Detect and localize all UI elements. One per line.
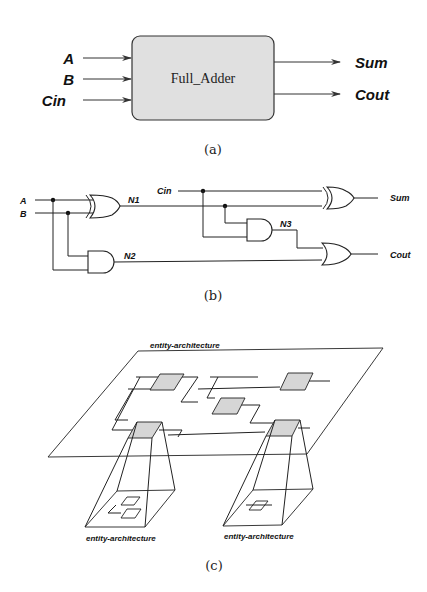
module-3 [212, 398, 245, 414]
input-a-label: A [62, 50, 74, 67]
module-1 [150, 374, 184, 390]
gate-input-cin-label: Cin [157, 186, 172, 196]
top-plane [48, 348, 383, 457]
figure-a-block-diagram: Full_Adder A B Cin Sum Cout (a) [42, 36, 390, 157]
net-n2-label: N2 [124, 251, 136, 261]
caption-b: (b) [204, 288, 222, 303]
left-subentity: entity-architecture [85, 422, 175, 543]
module-2 [280, 373, 313, 390]
output-sum-gate-label: Sum [390, 193, 410, 203]
full-adder-label: Full_Adder [171, 71, 236, 86]
output-cout-label: Cout [355, 86, 390, 103]
output-sum-label: Sum [355, 54, 388, 71]
top-entity-label: entity-architecture [150, 341, 220, 350]
input-b-label: B [63, 71, 74, 88]
net-n3-label: N3 [280, 219, 292, 229]
output-cout-gate-label: Cout [390, 250, 411, 260]
right-entity-label: entity-architecture [224, 532, 294, 541]
or-gate [322, 243, 351, 265]
net-n1-label: N1 [128, 195, 140, 205]
input-cin-label: Cin [42, 92, 66, 109]
xor-gate-1 [86, 195, 120, 218]
figure-b-gate-schematic: A B Cin N1 N2 [19, 186, 411, 303]
full-adder-figure: Full_Adder A B Cin Sum Cout (a) A B Cin [0, 0, 427, 592]
and-gate-2 [247, 219, 272, 241]
gate-input-b-label: B [20, 209, 27, 219]
figure-c-hierarchy: entity-architecture [48, 341, 383, 573]
caption-c: (c) [205, 558, 222, 573]
and-gate-1 [88, 251, 114, 273]
caption-a: (a) [204, 142, 222, 157]
left-entity-label: entity-architecture [86, 534, 156, 543]
xor-gate-2 [323, 187, 354, 209]
gate-input-a-label: A [19, 196, 27, 206]
right-subentity: entity-architecture [223, 420, 313, 541]
